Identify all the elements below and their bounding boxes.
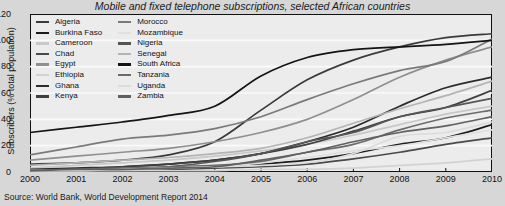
legend-swatch-icon [36,95,49,97]
legend-label: Mozambique [137,28,183,39]
chart-legend: AlgeriaBurkina FasoCameroonChadEgyptEthi… [36,17,183,102]
y-tick-100: 100 [0,36,11,45]
x-tick-2004: 2004 [193,174,237,184]
y-tick-120: 120 [0,10,11,19]
legend-item-mozambique[interactable]: Mozambique [118,28,183,39]
x-tick-2003: 2003 [147,174,191,184]
legend-item-south-africa[interactable]: South Africa [118,59,183,70]
legend-item-ghana[interactable]: Ghana [36,81,102,92]
legend-swatch-icon [36,32,49,34]
legend-label: Kenya [55,91,78,102]
chart-title: Mobile and fixed telephone subscriptions… [0,0,505,13]
legend-label: Nigeria [137,38,162,49]
series-line-cameroon [30,106,492,168]
legend-swatch-icon [36,74,49,76]
legend-item-chad[interactable]: Chad [36,49,102,60]
legend-label: Ethiopia [55,70,84,81]
x-tick-2001: 2001 [54,174,98,184]
legend-label: Ghana [55,81,79,92]
legend-label: Uganda [137,81,165,92]
legend-swatch-icon [36,21,49,23]
legend-item-ethiopia[interactable]: Ethiopia [36,70,102,81]
x-tick-2008: 2008 [378,174,422,184]
legend-item-burkina-faso[interactable]: Burkina Faso [36,28,102,39]
legend-label: Morocco [137,17,168,28]
chart-figure: Mobile and fixed telephone subscriptions… [0,0,505,206]
legend-label: Tanzania [137,70,169,81]
legend-item-cameroon[interactable]: Cameroon [36,38,102,49]
legend-swatch-icon [118,32,131,34]
legend-item-tanzania[interactable]: Tanzania [118,70,183,81]
x-tick-2009: 2009 [424,174,468,184]
x-tick-2006: 2006 [285,174,329,184]
legend-swatch-icon [118,63,131,65]
y-tick-60: 60 [0,89,11,98]
legend-swatch-icon [118,42,131,44]
legend-item-morocco[interactable]: Morocco [118,17,183,28]
legend-swatch-icon [118,95,131,97]
y-tick-40: 40 [0,115,11,124]
legend-item-kenya[interactable]: Kenya [36,91,102,102]
source-note: Source: World Bank, World Development Re… [4,192,208,202]
legend-item-algeria[interactable]: Algeria [36,17,102,28]
legend-swatch-icon [36,53,49,55]
y-tick-20: 20 [0,141,11,150]
legend-label: Cameroon [55,38,92,49]
legend-swatch-icon [118,21,131,23]
legend-label: Senegal [137,49,166,60]
legend-swatch-icon [118,53,131,55]
y-tick-80: 80 [0,62,11,71]
x-tick-2005: 2005 [239,174,283,184]
x-tick-2010: 2010 [470,174,505,184]
legend-swatch-icon [118,85,131,87]
x-tick-2007: 2007 [331,174,375,184]
x-tick-2000: 2000 [8,174,52,184]
legend-item-uganda[interactable]: Uganda [118,81,183,92]
legend-label: Egypt [55,59,75,70]
legend-item-zambia[interactable]: Zambia [118,91,183,102]
legend-column-left: AlgeriaBurkina FasoCameroonChadEgyptEthi… [36,17,102,102]
legend-swatch-icon [118,74,131,76]
legend-label: South Africa [137,59,180,70]
legend-item-senegal[interactable]: Senegal [118,49,183,60]
legend-item-nigeria[interactable]: Nigeria [118,38,183,49]
x-tick-2002: 2002 [100,174,144,184]
legend-swatch-icon [36,85,49,87]
legend-swatch-icon [36,42,49,44]
legend-column-right: MoroccoMozambiqueNigeriaSenegalSouth Afr… [118,17,183,102]
legend-label: Chad [55,49,74,60]
legend-label: Burkina Faso [55,28,102,39]
legend-swatch-icon [36,63,49,65]
legend-label: Zambia [137,91,164,102]
legend-item-egypt[interactable]: Egypt [36,59,102,70]
legend-label: Algeria [55,17,80,28]
